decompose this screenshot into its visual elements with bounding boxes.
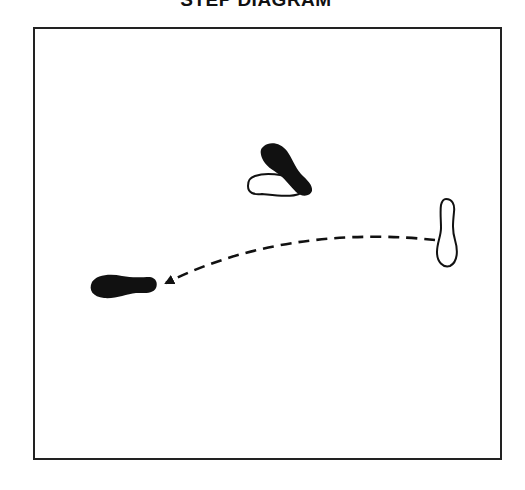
footprint-filled-end-icon [91,275,157,298]
step-path-arrow [166,237,435,283]
step-diagram-canvas [0,0,525,490]
footprint-outline-start-icon [437,199,457,266]
